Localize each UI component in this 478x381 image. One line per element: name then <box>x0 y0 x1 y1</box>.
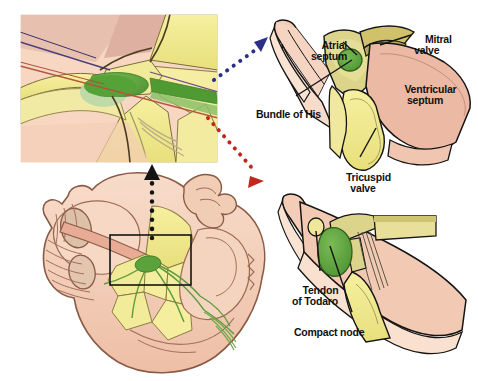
label-tendon-of-todaro: Tendon of Todaro <box>282 273 348 319</box>
dotted-arrow-blue <box>214 37 268 80</box>
artwork-layer <box>0 0 478 381</box>
anatomical-figure: Atrial septum Mitral valve Ventricular s… <box>0 0 478 381</box>
inset-panel-art <box>20 14 218 163</box>
label-bundle-of-his: Bundle of His <box>245 97 323 132</box>
label-tricuspid-valve: Tricuspid valve <box>332 160 394 206</box>
label-mitral-valve: Mitral valve <box>414 22 474 68</box>
compact-node-green-lower <box>318 228 352 277</box>
label-ventricular-septum: Ventricular septum <box>388 72 462 118</box>
heart-section-art <box>43 173 264 373</box>
label-atrial-septum: Atrial septum <box>300 28 358 74</box>
label-compact-node: Compact node <box>283 315 379 350</box>
